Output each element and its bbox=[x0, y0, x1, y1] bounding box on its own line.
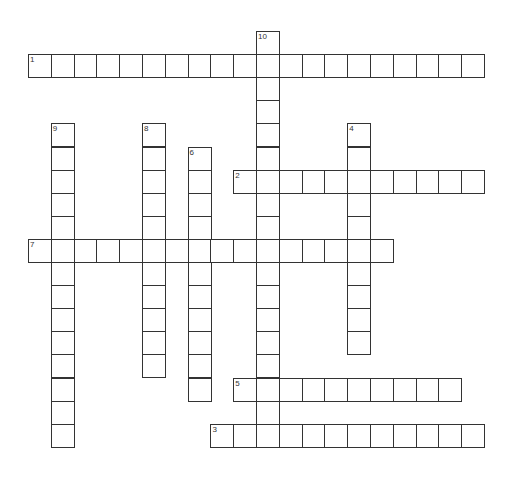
crossword-cell[interactable] bbox=[142, 354, 166, 378]
crossword-cell[interactable] bbox=[461, 54, 485, 78]
crossword-cell[interactable] bbox=[347, 54, 371, 78]
crossword-cell[interactable] bbox=[393, 54, 417, 78]
crossword-cell[interactable] bbox=[256, 170, 280, 194]
crossword-cell[interactable] bbox=[188, 262, 212, 286]
crossword-cell[interactable]: 1 bbox=[28, 54, 52, 78]
crossword-cell[interactable] bbox=[324, 239, 348, 263]
crossword-cell[interactable] bbox=[51, 378, 75, 402]
crossword-cell[interactable] bbox=[51, 262, 75, 286]
crossword-cell[interactable] bbox=[188, 193, 212, 217]
crossword-cell[interactable] bbox=[393, 424, 417, 448]
crossword-cell[interactable] bbox=[51, 285, 75, 309]
crossword-cell[interactable] bbox=[438, 424, 462, 448]
crossword-cell[interactable] bbox=[302, 239, 326, 263]
crossword-cell[interactable] bbox=[347, 262, 371, 286]
crossword-cell[interactable] bbox=[393, 170, 417, 194]
crossword-cell[interactable] bbox=[256, 216, 280, 240]
crossword-cell[interactable] bbox=[370, 170, 394, 194]
crossword-cell[interactable] bbox=[256, 54, 280, 78]
crossword-cell[interactable] bbox=[142, 308, 166, 332]
crossword-cell[interactable] bbox=[188, 239, 212, 263]
crossword-cell[interactable] bbox=[188, 216, 212, 240]
crossword-cell[interactable] bbox=[302, 54, 326, 78]
crossword-cell[interactable] bbox=[96, 239, 120, 263]
crossword-cell[interactable] bbox=[279, 239, 303, 263]
crossword-cell[interactable] bbox=[142, 239, 166, 263]
crossword-cell[interactable] bbox=[256, 424, 280, 448]
crossword-cell[interactable] bbox=[347, 193, 371, 217]
crossword-cell[interactable] bbox=[347, 216, 371, 240]
crossword-cell[interactable] bbox=[142, 216, 166, 240]
crossword-cell[interactable] bbox=[347, 308, 371, 332]
crossword-cell[interactable] bbox=[142, 262, 166, 286]
crossword-cell[interactable] bbox=[51, 147, 75, 171]
crossword-cell[interactable]: 8 bbox=[142, 123, 166, 147]
crossword-cell[interactable] bbox=[210, 54, 234, 78]
crossword-cell[interactable] bbox=[302, 170, 326, 194]
crossword-cell[interactable] bbox=[256, 123, 280, 147]
crossword-cell[interactable] bbox=[279, 170, 303, 194]
crossword-cell[interactable] bbox=[416, 424, 440, 448]
crossword-cell[interactable]: 2 bbox=[233, 170, 257, 194]
crossword-cell[interactable] bbox=[370, 239, 394, 263]
crossword-cell[interactable] bbox=[74, 54, 98, 78]
crossword-cell[interactable] bbox=[256, 401, 280, 425]
crossword-cell[interactable] bbox=[188, 354, 212, 378]
crossword-cell[interactable] bbox=[302, 378, 326, 402]
crossword-cell[interactable] bbox=[347, 170, 371, 194]
crossword-cell[interactable]: 10 bbox=[256, 31, 280, 55]
crossword-cell[interactable] bbox=[188, 54, 212, 78]
crossword-cell[interactable] bbox=[370, 54, 394, 78]
crossword-cell[interactable]: 4 bbox=[347, 123, 371, 147]
crossword-cell[interactable] bbox=[438, 378, 462, 402]
crossword-cell[interactable] bbox=[51, 308, 75, 332]
crossword-cell[interactable] bbox=[347, 147, 371, 171]
crossword-cell[interactable] bbox=[324, 378, 348, 402]
crossword-cell[interactable]: 6 bbox=[188, 147, 212, 171]
crossword-cell[interactable] bbox=[51, 193, 75, 217]
crossword-cell[interactable] bbox=[51, 354, 75, 378]
crossword-cell[interactable] bbox=[324, 424, 348, 448]
crossword-cell[interactable] bbox=[165, 54, 189, 78]
crossword-cell[interactable] bbox=[256, 262, 280, 286]
crossword-cell[interactable] bbox=[142, 170, 166, 194]
crossword-cell[interactable] bbox=[393, 378, 417, 402]
crossword-cell[interactable] bbox=[347, 331, 371, 355]
crossword-cell[interactable] bbox=[256, 285, 280, 309]
crossword-cell[interactable] bbox=[51, 331, 75, 355]
crossword-cell[interactable] bbox=[142, 285, 166, 309]
crossword-cell[interactable] bbox=[416, 170, 440, 194]
crossword-cell[interactable]: 5 bbox=[233, 378, 257, 402]
crossword-cell[interactable] bbox=[51, 239, 75, 263]
crossword-cell[interactable] bbox=[256, 378, 280, 402]
crossword-cell[interactable] bbox=[324, 170, 348, 194]
crossword-cell[interactable] bbox=[256, 77, 280, 101]
crossword-cell[interactable] bbox=[347, 424, 371, 448]
crossword-cell[interactable]: 9 bbox=[51, 123, 75, 147]
crossword-cell[interactable] bbox=[370, 378, 394, 402]
crossword-cell[interactable] bbox=[347, 285, 371, 309]
crossword-cell[interactable] bbox=[256, 354, 280, 378]
crossword-cell[interactable] bbox=[256, 147, 280, 171]
crossword-cell[interactable] bbox=[119, 54, 143, 78]
crossword-cell[interactable] bbox=[256, 100, 280, 124]
crossword-cell[interactable] bbox=[188, 285, 212, 309]
crossword-cell[interactable] bbox=[51, 401, 75, 425]
crossword-cell[interactable] bbox=[96, 54, 120, 78]
crossword-cell[interactable] bbox=[51, 170, 75, 194]
crossword-cell[interactable] bbox=[416, 378, 440, 402]
crossword-cell[interactable] bbox=[256, 193, 280, 217]
crossword-cell[interactable] bbox=[188, 308, 212, 332]
crossword-cell[interactable] bbox=[51, 216, 75, 240]
crossword-cell[interactable] bbox=[461, 170, 485, 194]
crossword-cell[interactable] bbox=[256, 331, 280, 355]
crossword-cell[interactable] bbox=[279, 424, 303, 448]
crossword-cell[interactable] bbox=[370, 424, 394, 448]
crossword-cell[interactable] bbox=[51, 54, 75, 78]
crossword-cell[interactable] bbox=[416, 54, 440, 78]
crossword-cell[interactable] bbox=[256, 308, 280, 332]
crossword-cell[interactable] bbox=[347, 378, 371, 402]
crossword-cell[interactable] bbox=[438, 54, 462, 78]
crossword-cell[interactable] bbox=[142, 54, 166, 78]
crossword-cell[interactable] bbox=[461, 424, 485, 448]
